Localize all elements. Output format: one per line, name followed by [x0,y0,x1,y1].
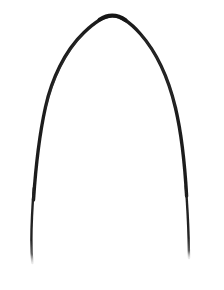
arch-figure-svg [0,0,224,290]
figure-canvas: Arch Curve Figure Single hand-drawn ogiv… [0,0,224,290]
figure-background [0,0,224,290]
